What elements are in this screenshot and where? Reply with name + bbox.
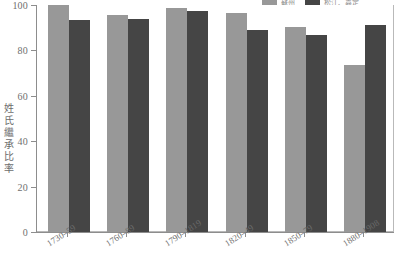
bar-0-0	[48, 5, 69, 232]
bar-chart: 蘇州 松江、嘉定 姓氏繼承比率 020406080100 1730–591760…	[0, 0, 398, 278]
y-tick-mark	[31, 232, 36, 233]
y-axis-label: 姓氏繼承比率	[2, 103, 15, 175]
y-tick-mark	[31, 187, 36, 188]
bars-layer	[37, 5, 393, 232]
bar-4-1	[306, 35, 327, 232]
bar-3-1	[247, 30, 268, 232]
y-tick-mark	[31, 141, 36, 142]
y-tick-mark	[31, 50, 36, 51]
bar-5-0	[344, 65, 365, 232]
bar-2-0	[166, 8, 187, 232]
bar-4-0	[285, 27, 306, 232]
x-axis-labels: 1730–591760–891790–18191820–491850–79188…	[37, 233, 393, 278]
bar-1-0	[107, 15, 128, 232]
bar-3-0	[226, 13, 247, 232]
y-tick-label: 80	[18, 45, 28, 56]
y-tick-label: 100	[12, 0, 28, 11]
y-tick-mark	[31, 5, 36, 6]
y-tick-mark	[31, 96, 36, 97]
y-tick-label: 60	[18, 90, 28, 101]
bar-1-1	[128, 19, 149, 232]
y-tick-label: 20	[18, 181, 28, 192]
bar-2-1	[187, 11, 208, 232]
y-tick-label: 40	[18, 136, 28, 147]
y-tick-label: 0	[23, 227, 28, 238]
bar-5-1	[365, 25, 386, 232]
bar-0-1	[69, 20, 90, 232]
